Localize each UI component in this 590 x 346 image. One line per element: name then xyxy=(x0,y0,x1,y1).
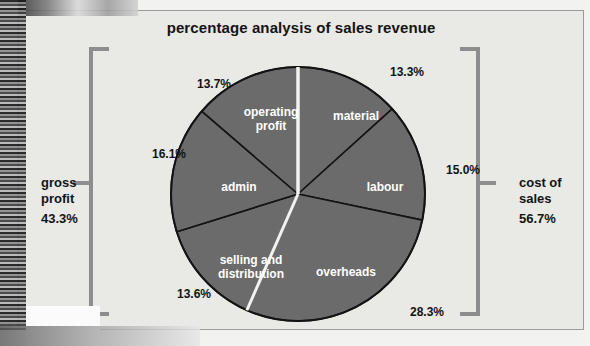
chart-screenshot: percentage analysis of sales revenue ope… xyxy=(0,0,590,346)
chart-card: percentage analysis of sales revenue ope… xyxy=(18,10,584,330)
cost-of-sales-value: 56.7% xyxy=(519,211,589,227)
gross-profit-value: 43.3% xyxy=(41,211,103,227)
value-label-operating-profit: 13.7% xyxy=(197,77,231,91)
slice-label-overheads: overheads xyxy=(307,265,385,279)
slice-label-selling-and-distribution: selling and distribution xyxy=(205,253,297,281)
slice-label-material: material xyxy=(324,109,388,123)
value-label-overheads: 28.3% xyxy=(410,305,444,319)
gross-profit-name: gross profit xyxy=(41,175,76,206)
slice-label-operating-profit: operating profit xyxy=(235,105,307,133)
value-label-selling-and-distribution: 13.6% xyxy=(177,287,211,301)
value-label-labour: 15.0% xyxy=(446,163,480,177)
cost-of-sales-bracket xyxy=(460,49,496,314)
pie-chart xyxy=(19,11,585,331)
slice-label-admin: admin xyxy=(211,180,267,194)
cost-of-sales-name: cost of sales xyxy=(519,175,562,206)
cost-of-sales-label: cost of sales 56.7% xyxy=(519,175,589,227)
value-label-material: 13.3% xyxy=(390,65,424,79)
value-label-admin: 16.1% xyxy=(152,147,186,161)
slice-label-labour: labour xyxy=(357,180,413,194)
gross-profit-label: gross profit 43.3% xyxy=(41,175,103,227)
